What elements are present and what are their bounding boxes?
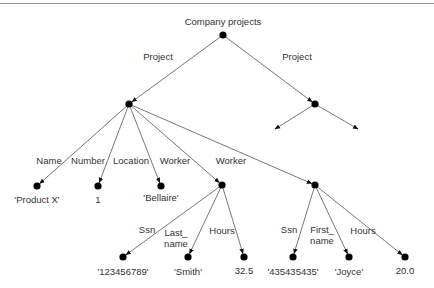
- tree-node-ssn2: [289, 253, 296, 260]
- edge-label: Project: [143, 51, 173, 62]
- leaf-value: '435435435': [267, 266, 318, 277]
- edge-arrow: [223, 35, 312, 102]
- edge-arrow: [189, 185, 222, 254]
- tree-node-name: [33, 182, 40, 189]
- edges: [40, 35, 403, 255]
- tree-node-hours1: [240, 253, 247, 260]
- edge-arrow: [315, 104, 358, 129]
- leaf-value: 'Bellaire': [143, 192, 178, 203]
- leaf-value: 20.0: [396, 265, 415, 276]
- edge-label: name: [164, 238, 188, 249]
- tree-node-w2: [311, 181, 318, 188]
- edge-label: Hours: [350, 225, 376, 236]
- edge-arrow: [129, 104, 160, 183]
- tree-node-p2: [311, 100, 318, 107]
- edge-arrow: [222, 185, 243, 254]
- edge-label: name: [310, 235, 334, 246]
- edge-arrow: [40, 104, 129, 184]
- edge-label: Location: [113, 155, 149, 166]
- edge-arrow: [129, 104, 219, 183]
- root-label: Company projects: [185, 16, 262, 27]
- leaf-value: 32.5: [235, 265, 254, 276]
- edge-label: Ssn: [139, 224, 155, 235]
- edge-label: Worker: [216, 155, 246, 166]
- tree-node-ssn1: [119, 253, 126, 260]
- tree-node-location: [157, 182, 164, 189]
- company-projects-tree: Company projects ProjectProjectNameNumbe…: [0, 0, 434, 288]
- edge-arrow: [132, 35, 223, 102]
- leaf-value: 'Joyce': [335, 266, 364, 277]
- tree-node-first: [345, 253, 352, 260]
- edge-label: Hours: [209, 225, 235, 236]
- leaf-value: 1: [95, 194, 100, 205]
- edge-arrow: [275, 104, 315, 129]
- edge-label: Number: [71, 155, 105, 166]
- tree-node-root: [219, 31, 226, 38]
- tree-node-p1: [125, 100, 132, 107]
- tree-node-last: [184, 253, 191, 260]
- leaf-value: 'Smith': [174, 266, 202, 277]
- leaf-value: 'Product X': [14, 194, 60, 205]
- edge-label: Worker: [160, 155, 190, 166]
- edge-label: Project: [282, 51, 312, 62]
- leaf-value: '123456789': [97, 266, 148, 277]
- edge-arrow: [99, 104, 129, 183]
- edge-arrow: [129, 104, 312, 184]
- edge-label: Name: [36, 155, 61, 166]
- edge-label: Last_: [164, 227, 188, 238]
- tree-node-hours2: [401, 253, 408, 260]
- tree-node-number: [94, 182, 101, 189]
- tree-node-w1: [218, 181, 225, 188]
- edge-label: First_: [310, 224, 334, 235]
- edge-label: Ssn: [281, 224, 297, 235]
